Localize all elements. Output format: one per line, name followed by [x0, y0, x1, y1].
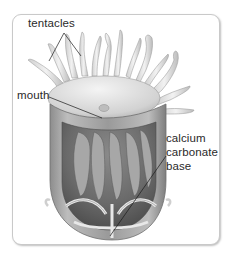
mouth-opening [99, 105, 109, 112]
label-base-line2: carbonate [166, 147, 218, 158]
coral-polyp-illustration [0, 0, 232, 256]
label-tentacles: tentacles [28, 18, 75, 29]
label-base-line3: base [166, 161, 191, 172]
label-mouth: mouth [17, 90, 49, 101]
label-base-line1: calcium [166, 133, 206, 144]
